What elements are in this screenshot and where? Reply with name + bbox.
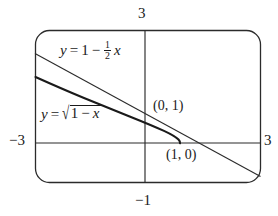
equation-line-lhs: y (60, 42, 67, 58)
equation-curve-equals: = (48, 106, 62, 122)
radicand-minus: − (78, 105, 92, 121)
equation-line-variable: x (112, 42, 121, 58)
radicand-variable: x (93, 105, 100, 121)
axis-label-right: 3 (264, 133, 272, 148)
equation-label-curve: y=√1−x (41, 106, 101, 122)
fraction-denominator: 2 (104, 50, 111, 61)
equation-label-line: y=1−12x (60, 40, 121, 62)
point-label-1-0: (1, 0) (166, 148, 196, 162)
axis-label-top: 3 (138, 6, 146, 21)
fraction-one-half: 12 (104, 40, 111, 62)
equation-line-rhs-head: 1 (81, 42, 89, 58)
radical-sign-icon: √ (62, 103, 69, 122)
equation-line-equals: = (67, 42, 81, 58)
equation-line-minus: − (89, 42, 103, 58)
radical-expression: √1−x (62, 106, 101, 122)
fraction-numerator: 1 (104, 40, 111, 50)
axis-label-bottom: −1 (135, 193, 151, 208)
radicand: 1−x (70, 105, 102, 121)
point-label-0-1: (0, 1) (153, 99, 183, 113)
axis-label-left: −3 (9, 133, 25, 148)
graph-figure: 3 −1 −3 3 (0, 1) (1, 0) y=1−12x y=√1−x (0, 0, 278, 216)
equation-curve-lhs: y (41, 106, 48, 122)
